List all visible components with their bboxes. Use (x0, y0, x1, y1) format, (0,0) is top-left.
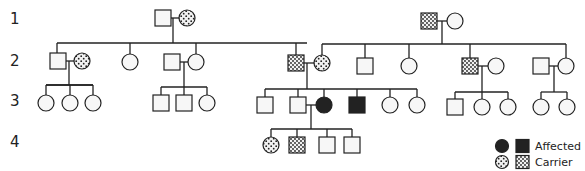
generation-label: 2 (10, 52, 20, 70)
female-icon (409, 97, 425, 113)
female-icon (488, 58, 504, 74)
legend-carrier-female-icon (496, 156, 509, 169)
carrier-female-icon (263, 137, 279, 153)
female-icon (85, 95, 101, 111)
generation-label: 3 (10, 92, 20, 110)
male-icon (290, 97, 306, 113)
female-icon (38, 95, 54, 111)
male-icon (344, 137, 360, 153)
carrier-female-icon (179, 10, 195, 26)
carrier-male-icon (421, 13, 437, 29)
affected-male-icon (349, 97, 365, 113)
male-icon (319, 137, 335, 153)
carrier-male-icon (462, 58, 478, 74)
legend: Affected Carrier (496, 140, 581, 170)
carrier-female-icon (314, 55, 330, 71)
male-icon (164, 54, 180, 70)
male-icon (357, 58, 373, 74)
female-icon (62, 95, 78, 111)
carrier-male-icon (289, 137, 305, 153)
male-icon (153, 95, 169, 111)
female-icon (533, 99, 549, 115)
carrier-male-icon (288, 55, 304, 71)
female-icon (382, 97, 398, 113)
generation-label: 4 (10, 133, 20, 151)
female-icon (447, 13, 463, 29)
legend-affected-label: Affected (535, 140, 581, 153)
male-icon (257, 97, 273, 113)
female-icon (401, 58, 417, 74)
relationship-lines (46, 18, 567, 137)
male-icon (533, 58, 549, 74)
male-icon (50, 53, 66, 69)
affected-female-icon (316, 97, 332, 113)
male-icon (155, 10, 171, 26)
generation-labels: 1234 (10, 10, 20, 151)
legend-affected-male-icon (516, 140, 529, 153)
male-icon (176, 95, 192, 111)
carrier-female-icon (74, 53, 90, 69)
female-icon (122, 54, 138, 70)
female-icon (199, 95, 215, 111)
legend-carrier-male-icon (516, 156, 529, 169)
generation-label: 1 (10, 10, 20, 28)
pedigree-diagram: 1234 Affected Carrier (0, 0, 585, 171)
legend-affected-female-icon (496, 140, 509, 153)
male-icon (447, 99, 463, 115)
female-icon (474, 99, 490, 115)
female-icon (558, 58, 574, 74)
legend-carrier-label: Carrier (535, 156, 573, 169)
female-icon (500, 99, 516, 115)
female-icon (559, 99, 575, 115)
female-icon (188, 54, 204, 70)
